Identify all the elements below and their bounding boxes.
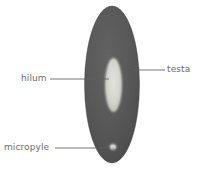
hilum-shape: [105, 58, 122, 112]
label-hilum: hilum: [21, 73, 47, 84]
label-testa: testa: [167, 64, 190, 75]
micropyle-shape: [110, 144, 117, 150]
label-micropyle: micropyle: [4, 142, 49, 153]
seed-structure-diagram: hilum testa micropyle: [0, 0, 202, 171]
